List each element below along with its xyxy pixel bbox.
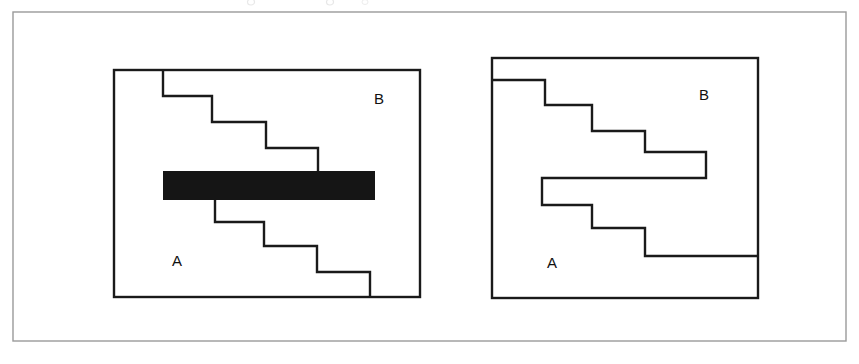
outer-figure-border [13, 12, 846, 341]
figure-container: B A B A [0, 0, 859, 364]
region-label-a-right: A [547, 254, 557, 271]
region-label-a-left: A [172, 252, 182, 269]
occluding-black-bar [163, 171, 375, 200]
region-label-b-left: B [374, 90, 384, 107]
region-label-b-right: B [699, 86, 709, 103]
figure-canvas: B A B A [0, 0, 859, 364]
